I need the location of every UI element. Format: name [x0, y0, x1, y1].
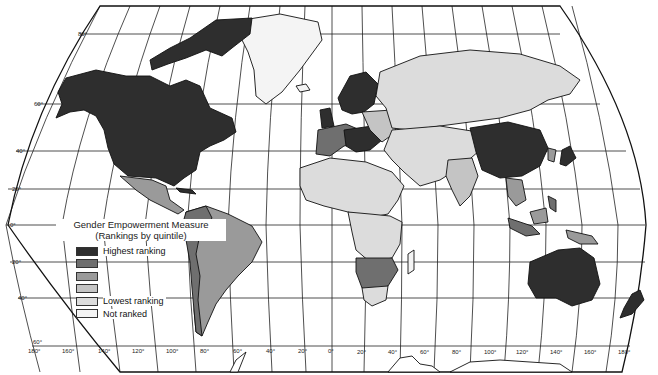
svg-text:100°: 100°: [484, 349, 497, 355]
svg-text:120°: 120°: [516, 349, 529, 355]
borneo: [530, 208, 548, 224]
scandinavia: [338, 72, 378, 114]
legend-swatch: [76, 272, 98, 281]
svg-text:20°: 20°: [12, 259, 22, 265]
legend-swatch: [76, 284, 98, 293]
legend-item-lowest: Lowest ranking: [76, 295, 226, 308]
central-africa: [348, 212, 402, 262]
antarctica-fragment-2: [450, 360, 572, 372]
svg-text:0°: 0°: [10, 222, 16, 228]
legend-swatch: [76, 247, 98, 256]
iceland: [296, 84, 310, 92]
legend-item-not-ranked: Not ranked: [76, 308, 226, 321]
svg-text:40°: 40°: [388, 349, 398, 355]
svg-text:80°: 80°: [200, 348, 210, 354]
svg-text:40°: 40°: [266, 348, 276, 354]
north-america-canada-usa: [56, 70, 236, 186]
antarctic-peninsula: [230, 352, 246, 372]
legend: Gender Empowerment Measure (Rankings by …: [56, 219, 226, 320]
svg-text:140°: 140°: [550, 349, 563, 355]
svg-text:60°: 60°: [233, 348, 243, 354]
svg-text:0°: 0°: [328, 348, 334, 354]
svg-text:60°: 60°: [420, 349, 430, 355]
south-africa: [362, 286, 388, 306]
korea: [548, 148, 556, 162]
svg-text:20°: 20°: [357, 349, 367, 355]
russia: [376, 50, 580, 130]
legend-item-fourth: [76, 283, 226, 296]
madagascar: [408, 250, 414, 274]
svg-text:180°: 180°: [618, 349, 631, 355]
svg-text:180°: 180°: [28, 348, 41, 354]
svg-text:160°: 160°: [584, 349, 597, 355]
antarctica-fragment-1: [388, 356, 440, 372]
southeast-asia: [506, 178, 526, 206]
legend-title: Gender Empowerment Measure (Rankings by …: [56, 219, 226, 241]
australia: [528, 248, 600, 306]
svg-text:120°: 120°: [132, 348, 145, 354]
canada-arctic-islands: [150, 18, 252, 70]
legend-swatch: [76, 259, 98, 268]
legend-item-third: [76, 270, 226, 283]
svg-text:80°: 80°: [452, 349, 462, 355]
svg-text:100°: 100°: [166, 348, 179, 354]
svg-text:20°: 20°: [298, 348, 308, 354]
legend-item-second: [76, 258, 226, 271]
legend-item-highest: Highest ranking: [76, 245, 226, 258]
china: [470, 122, 548, 178]
svg-text:40°: 40°: [18, 295, 28, 301]
svg-text:160°: 160°: [62, 348, 75, 354]
south-asia: [446, 158, 478, 206]
svg-text:140°: 140°: [98, 348, 111, 354]
svg-text:20°: 20°: [12, 186, 22, 192]
north-africa: [300, 158, 404, 218]
legend-swatch: [76, 297, 98, 306]
svg-text:60°: 60°: [33, 339, 43, 345]
legend-rows: Highest ranking Lowest ranking Not ranke…: [76, 245, 226, 320]
svg-text:40°: 40°: [16, 148, 26, 154]
philippines: [548, 196, 556, 212]
svg-text:80°: 80°: [78, 31, 88, 37]
svg-text:60°: 60°: [34, 101, 44, 107]
new-zealand: [620, 290, 644, 318]
legend-swatch: [76, 309, 98, 318]
